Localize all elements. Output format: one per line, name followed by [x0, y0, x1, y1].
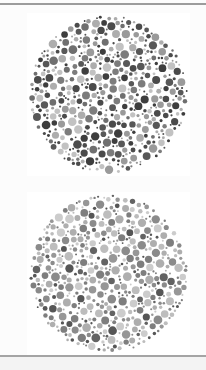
plate-dot [105, 99, 108, 102]
plate-dot [116, 340, 118, 342]
plate-dot [72, 85, 79, 92]
plate-dot [162, 124, 167, 129]
plate-dot [43, 243, 45, 245]
plate-dot [72, 327, 79, 334]
plate-dot [72, 212, 74, 214]
plate-dot [108, 136, 110, 138]
plate-dot [176, 112, 180, 116]
plate-dot [67, 103, 70, 106]
plate-dot [157, 330, 160, 333]
plate-dot [112, 68, 118, 74]
plate-dot [105, 224, 107, 226]
plate-dot [146, 65, 151, 70]
plate-dot [122, 148, 127, 153]
plate-dot [93, 207, 96, 210]
plate-dot [168, 317, 170, 319]
plate-dot [70, 99, 75, 104]
plate-dot [152, 76, 160, 84]
plate-dot [86, 132, 89, 135]
plate-dot [98, 119, 100, 121]
plate-dot [138, 209, 143, 214]
plate-dot [144, 44, 146, 46]
plate-dot [102, 39, 109, 46]
plate-dot [127, 244, 130, 247]
plate-dot [158, 133, 160, 135]
plate-dot [108, 129, 113, 134]
plate-dot [177, 277, 179, 279]
plate-dot [108, 325, 110, 327]
plate-dot [97, 257, 100, 260]
plate-dot [158, 302, 161, 305]
plate-dot [126, 294, 128, 296]
plate-dot [144, 134, 148, 138]
plate-dot [81, 23, 88, 30]
plate-dot [76, 207, 79, 210]
plate-dot [47, 70, 50, 73]
plate-dot [77, 295, 84, 302]
plate-dot [31, 283, 37, 289]
plate-dot [61, 87, 65, 91]
plate-dot [159, 64, 167, 72]
plate-dot [110, 310, 116, 316]
plate-dot [84, 319, 87, 322]
plate-dot [174, 84, 177, 87]
plate-dot [121, 263, 124, 266]
plate-dot [154, 276, 159, 281]
plate-dot [118, 264, 120, 266]
plate-dot [135, 144, 137, 146]
plate-dot [154, 310, 156, 312]
plate-dot [101, 258, 108, 265]
plate-dot [83, 343, 85, 345]
plate-dot [145, 63, 147, 65]
plate-dot [81, 255, 84, 258]
plate-dot [104, 32, 107, 35]
plate-dot [162, 133, 164, 135]
plate-dot [69, 45, 78, 54]
plate-dot [121, 165, 123, 167]
plate-dot [78, 112, 86, 120]
plate-dot [119, 297, 127, 305]
plate-dot [148, 62, 150, 64]
plate-dot [43, 313, 47, 317]
plate-dot [57, 291, 65, 299]
plate-dot [84, 20, 86, 22]
plate-dot [38, 109, 42, 113]
plate-dot [129, 81, 135, 87]
plate-dot [58, 114, 61, 117]
plate-dot [68, 118, 77, 127]
plate-dot [106, 54, 108, 56]
plate-dot [85, 86, 88, 89]
plate-dot [59, 272, 61, 274]
plate-dot [152, 215, 160, 223]
plate-dot [108, 326, 117, 335]
plate-dot [128, 26, 130, 28]
plate-dot [52, 69, 56, 73]
plate-dot [54, 302, 57, 305]
plate-dot [120, 282, 122, 284]
plate-dot [89, 58, 92, 61]
plate-dot [74, 34, 76, 36]
plate-dot [94, 36, 98, 40]
plate-dot [116, 43, 124, 51]
plate-dot [150, 240, 157, 247]
plate-dot [109, 121, 116, 128]
plate-dot [148, 83, 154, 89]
plate-dot [43, 114, 46, 117]
plate-dot [37, 125, 41, 129]
plate-dot [181, 299, 183, 301]
plate-dot [67, 98, 69, 100]
plate-dot [153, 301, 156, 304]
plate-dot [155, 154, 158, 157]
plate-dot [34, 76, 42, 84]
plate-dot [78, 94, 80, 96]
plate-dot [140, 287, 142, 289]
plate-dot [60, 135, 65, 140]
plate-dot [85, 115, 93, 123]
ishihara-plate-bottom [27, 192, 190, 355]
plate-dot [131, 221, 135, 225]
plate-dot [101, 131, 107, 137]
plate-dot [50, 322, 55, 327]
plate-dot [59, 39, 61, 41]
plate-dot [157, 282, 160, 285]
plate-dot [62, 39, 69, 46]
